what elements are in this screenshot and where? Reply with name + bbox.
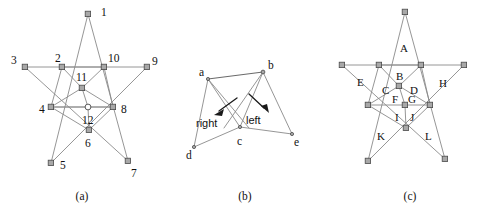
edge-a-b <box>208 72 263 79</box>
figure-canvas: 1 2 3 4 5 6 7 8 9 10 11 12 (a) <box>0 0 489 207</box>
node-2 <box>59 64 64 69</box>
figure-root: 1 2 3 4 5 6 7 8 9 10 11 12 (a) <box>0 0 489 207</box>
vertex-label-12: 12 <box>82 114 94 126</box>
region-label-E: E <box>357 76 364 88</box>
region-label-left: left <box>246 114 261 126</box>
vertex-label-2: 2 <box>55 52 61 64</box>
node-7 <box>125 158 130 163</box>
region-label-I: I <box>395 111 399 123</box>
node-c-top <box>402 9 407 14</box>
panel-c: A B C D E F G H I J K L (c) <box>339 9 466 203</box>
node-8 <box>110 104 115 109</box>
edge-c-12-6 <box>405 105 406 128</box>
vertex-label-e: e <box>294 136 299 148</box>
node-c-inner-ml <box>365 102 370 107</box>
vertex-label-11: 11 <box>76 71 87 83</box>
caption-panel-b: (b) <box>238 190 252 203</box>
vertex-label-1: 1 <box>101 6 107 18</box>
node-c-center <box>402 102 407 107</box>
node-c-center-upper <box>396 83 401 88</box>
arrow-right-head <box>214 109 224 116</box>
vertex-label-7: 7 <box>131 167 137 179</box>
edge-c-e <box>240 127 292 134</box>
node-c-bottom-right <box>442 156 447 161</box>
region-label-H: H <box>439 77 447 89</box>
edge-b-e <box>263 72 292 134</box>
vertex-label-a: a <box>199 66 204 78</box>
vertex-label-6: 6 <box>85 137 91 149</box>
region-label-F: F <box>392 93 398 105</box>
region-label-L: L <box>425 130 432 142</box>
vertex-label-8: 8 <box>121 103 127 115</box>
edge-10-8 <box>104 67 113 107</box>
edge-c-inner-bl <box>368 105 406 128</box>
edge-a-d <box>194 79 208 147</box>
node-c-right <box>461 62 466 67</box>
node-a <box>206 77 209 80</box>
node-6 <box>86 127 91 132</box>
caption-panel-a: (a) <box>76 190 89 203</box>
panel-b-arrows <box>214 94 269 116</box>
node-3 <box>22 64 27 69</box>
edge-c-d <box>194 127 240 147</box>
vertex-label-3: 3 <box>11 54 17 66</box>
node-9 <box>144 64 149 69</box>
panel-a: 1 2 3 4 5 6 7 8 9 10 11 12 (a) <box>11 6 158 203</box>
edge-c-r-bl <box>368 65 464 161</box>
edge-9-5 <box>51 67 147 163</box>
panel-b-edges <box>194 72 292 147</box>
node-d <box>192 145 195 148</box>
node-b <box>261 70 265 74</box>
panel-b: a b c d e right left (b) <box>186 59 299 203</box>
edge-1-7 <box>88 14 128 161</box>
node-c-inner-tr <box>418 62 423 67</box>
edge-c-inner-r <box>421 65 430 105</box>
vertex-label-c: c <box>237 135 242 147</box>
region-label-G: G <box>408 93 416 105</box>
region-label-B: B <box>396 70 403 82</box>
node-5 <box>48 160 53 165</box>
vertex-label-b: b <box>268 59 274 71</box>
arrow-left-head <box>261 104 269 113</box>
vertex-label-5: 5 <box>60 159 66 171</box>
panel-a-labels: 1 2 3 4 5 6 7 8 9 10 11 12 <box>11 6 158 179</box>
node-11 <box>79 85 84 90</box>
node-c-left <box>339 62 344 67</box>
vertex-label-10: 10 <box>108 52 120 64</box>
vertex-label-d: d <box>186 149 192 161</box>
region-label-A: A <box>400 42 408 54</box>
node-c-inner-tl <box>376 62 381 67</box>
vertex-label-4: 4 <box>39 103 45 115</box>
node-c-inner-mr <box>427 102 432 107</box>
node-4 <box>48 104 53 109</box>
node-c <box>238 125 241 128</box>
node-1 <box>85 11 90 16</box>
vertex-label-9: 9 <box>152 55 158 67</box>
node-12 <box>85 104 91 110</box>
region-label-J: J <box>410 111 415 123</box>
region-label-K: K <box>377 130 385 142</box>
node-10 <box>101 64 106 69</box>
node-c-inner-bottom <box>403 125 408 130</box>
region-label-C: C <box>382 84 389 96</box>
region-label-right: right <box>196 117 217 129</box>
node-c-bottom-left <box>365 158 370 163</box>
caption-panel-c: (c) <box>404 190 417 203</box>
